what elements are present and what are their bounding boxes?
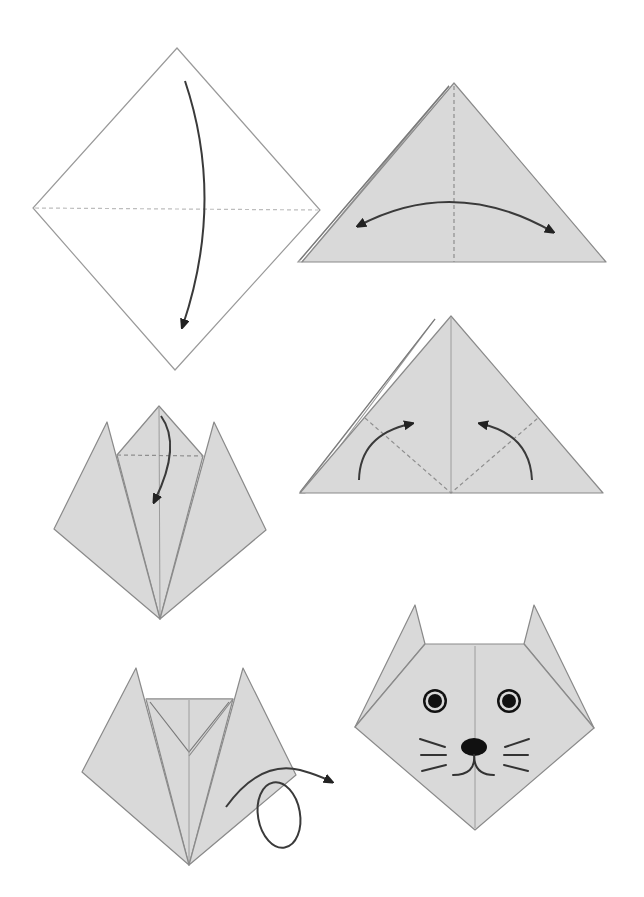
step-5-fold <box>82 668 330 865</box>
nose <box>461 738 487 756</box>
step-4-ears <box>54 406 266 619</box>
step-2-triangle <box>298 83 606 262</box>
right-eye <box>497 689 521 713</box>
step-1-square <box>33 48 320 370</box>
step-6-cat-face <box>355 605 594 830</box>
step-3-triangle <box>300 316 603 493</box>
left-eye <box>423 689 447 713</box>
origami-diagram <box>0 0 644 897</box>
